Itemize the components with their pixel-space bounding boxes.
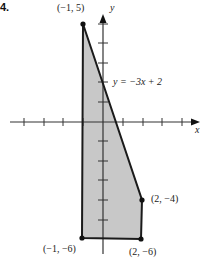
line-equation-label: y = −3x + 2	[113, 76, 162, 87]
x-axis-label: x	[195, 124, 199, 135]
vertex-label: (2, −4)	[151, 193, 178, 204]
y-axis-label: y	[110, 2, 114, 13]
graph	[0, 0, 203, 258]
vertex-point	[139, 197, 144, 202]
vertex-label: (−1, −6)	[43, 243, 76, 254]
y-axis-arrow-icon	[100, 14, 107, 23]
vertex-point	[80, 21, 85, 26]
vertex-point	[138, 236, 143, 241]
feasible-region	[82, 24, 142, 239]
vertex-label: (2, −6)	[129, 246, 156, 257]
vertex-label: (−1, 5)	[57, 2, 84, 13]
vertex-point	[79, 235, 84, 240]
